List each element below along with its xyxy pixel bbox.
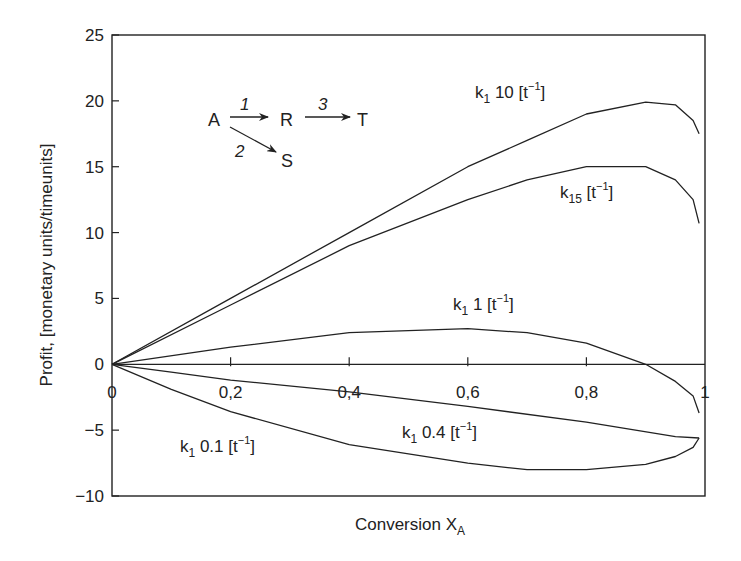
species-a: A xyxy=(208,110,220,130)
curve-label-1: k15 [t−1] xyxy=(560,180,613,206)
curve-0 xyxy=(112,102,699,364)
y-tick-label: 10 xyxy=(85,224,104,243)
x-axis-title: Conversion XA xyxy=(355,515,465,538)
y-tick-label: 0 xyxy=(95,355,104,374)
x-tick-label: 0,6 xyxy=(456,383,480,402)
step-1-label: 1 xyxy=(240,95,249,114)
step-3-label: 3 xyxy=(318,95,328,114)
step-2-label: 2 xyxy=(234,142,245,161)
x-tick-label: 0 xyxy=(107,383,116,402)
y-tick-label: 25 xyxy=(85,26,104,45)
species-t: T xyxy=(357,110,368,130)
species-s: S xyxy=(281,151,293,171)
x-axis-title-subscript: A xyxy=(457,524,465,538)
species-r: R xyxy=(280,110,293,130)
profit-vs-conversion-chart: −10−50510152025 00,20,40,60,81 k1 10 [t−… xyxy=(0,0,741,561)
y-tick-label: −5 xyxy=(85,421,104,440)
curves xyxy=(112,102,699,470)
x-tick-label: 1 xyxy=(700,383,709,402)
y-tick-label: 5 xyxy=(95,289,104,308)
curve-label-3: k1 0.4 [t−1] xyxy=(402,420,477,446)
curve-labels: k1 10 [t−1]k15 [t−1]k1 1 [t−1]k1 0.4 [t−… xyxy=(180,80,613,460)
y-tick-label: −10 xyxy=(75,487,104,506)
x-tick-label: 0,8 xyxy=(575,383,599,402)
reaction-scheme: A 1 R 3 T 2 S xyxy=(208,95,368,171)
y-tick-label: 15 xyxy=(85,158,104,177)
curve-label-0: k1 10 [t−1] xyxy=(475,80,545,106)
x-axis-title-main: Conversion X xyxy=(355,515,457,534)
curve-label-2: k1 1 [t−1] xyxy=(453,292,514,318)
y-axis-title: Profit, [monetary units/timeunits] xyxy=(37,144,56,387)
x-tick-label: 0,2 xyxy=(219,383,243,402)
y-tick-label: 20 xyxy=(85,92,104,111)
curve-label-4: k1 0.1 [t−1] xyxy=(180,434,255,460)
